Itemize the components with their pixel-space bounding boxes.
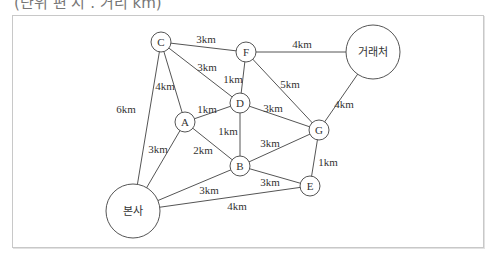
node-E: E (300, 176, 320, 196)
edge-distance-label: 3km (197, 61, 217, 73)
edge-distance-label: 4km (155, 80, 175, 92)
edge-distance-label: 4km (292, 38, 312, 50)
edge-distance-label: 2km (193, 144, 213, 156)
edges-layer (133, 42, 373, 211)
edge-distance-label: 6km (116, 103, 136, 115)
node-B: B (230, 156, 250, 176)
edge-distance-label: 4km (334, 98, 354, 110)
node-label: 본사 (123, 205, 143, 218)
edge-distance-label: 5km (280, 78, 300, 90)
edge-distance-label: 3km (199, 184, 219, 196)
node-label: C (157, 36, 164, 48)
node-G: G (309, 120, 329, 140)
edge-distance-label: 3km (148, 143, 168, 155)
edge-distance-label: 3km (260, 137, 280, 149)
node-C: C (151, 32, 171, 52)
edge-F-G (246, 52, 319, 130)
edge-distance-label: 3km (263, 102, 283, 114)
route-network-diagram: 3km3km4km6km4km1km5km4km1km3km1km2km3km3… (0, 0, 495, 258)
node-F: F (236, 42, 256, 62)
node-label: E (307, 180, 314, 192)
edge-distance-label: 1km (223, 73, 243, 85)
node-label: A (181, 116, 189, 128)
edge-distance-label: 4km (227, 200, 247, 212)
edge-distance-label: 3km (260, 176, 280, 188)
node-label: B (236, 160, 243, 172)
node-hq: 본사 (106, 184, 160, 238)
edge-distance-label: 3km (196, 33, 216, 45)
node-label: G (315, 124, 323, 136)
edge-distance-label: 1km (318, 156, 338, 168)
edge-distance-label: 1km (197, 103, 217, 115)
node-label: D (236, 97, 244, 109)
node-A: A (175, 112, 195, 132)
edge-distance-label: 1km (218, 125, 238, 137)
node-client: 거래처 (346, 25, 400, 79)
node-label: 거래처 (358, 46, 388, 59)
node-D: D (230, 93, 250, 113)
node-label: F (243, 46, 249, 58)
nodes-layer: CF거래처DAGBE본사 (106, 25, 400, 238)
